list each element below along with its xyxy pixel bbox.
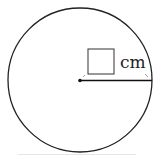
radius-tick-left <box>83 75 85 77</box>
circle-diagram: cm <box>0 0 159 160</box>
radius-tick-right <box>145 74 148 77</box>
unit-label: cm <box>120 52 146 72</box>
divider <box>18 154 136 155</box>
answer-box[interactable] <box>88 49 114 74</box>
